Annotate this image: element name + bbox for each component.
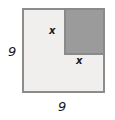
label-left-dimension: 9 [8,45,16,58]
label-x-bottom: x [76,56,82,66]
label-bottom-dimension: 9 [58,100,66,113]
label-x-top: x [49,26,55,36]
outer-square [22,8,105,93]
shaded-corner-square [64,8,105,55]
geometry-figure: x x 9 9 [0,0,115,120]
